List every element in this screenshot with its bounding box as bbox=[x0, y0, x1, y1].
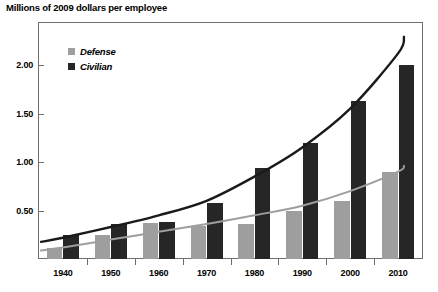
x-axis-tick-label: 2000 bbox=[341, 268, 360, 278]
gray-square-icon bbox=[68, 48, 75, 55]
x-axis-tick-mark bbox=[326, 259, 327, 265]
bar-civilian bbox=[159, 222, 175, 259]
bar-civilian bbox=[303, 143, 319, 259]
bar-civilian bbox=[207, 203, 223, 259]
legend-label-civilian: Civilian bbox=[80, 61, 112, 72]
x-axis-tick-mark bbox=[135, 259, 136, 265]
x-axis-tick-label: 1970 bbox=[197, 268, 216, 278]
bar-defense bbox=[286, 211, 302, 259]
x-axis-tick-mark bbox=[183, 259, 184, 265]
bar-defense bbox=[382, 172, 398, 259]
x-axis-tick-mark bbox=[278, 259, 279, 265]
legend-item-defense: Defense bbox=[68, 46, 116, 57]
black-square-icon bbox=[68, 63, 75, 70]
bar-defense bbox=[191, 226, 207, 259]
bar-civilian bbox=[63, 235, 79, 259]
x-axis-tick-mark bbox=[231, 259, 232, 265]
legend-label-defense: Defense bbox=[80, 46, 116, 57]
bar-defense bbox=[334, 201, 350, 259]
x-axis-tick-label: 1980 bbox=[245, 268, 264, 278]
x-axis-tick-label: 1940 bbox=[53, 268, 72, 278]
y-axis-tick-label: 2.00 bbox=[16, 60, 33, 70]
bar-defense bbox=[143, 223, 159, 259]
y-axis-labels: 0.501.001.502.00 bbox=[0, 0, 33, 292]
y-axis-tick-label: 0.50 bbox=[16, 206, 33, 216]
x-axis-tick-label: 1990 bbox=[293, 268, 312, 278]
chart-container: Millions of 2009 dollars per employee 0.… bbox=[0, 0, 438, 292]
bar-defense bbox=[95, 235, 111, 259]
bar-civilian bbox=[255, 168, 271, 259]
bar-civilian bbox=[351, 101, 367, 259]
legend-item-civilian: Civilian bbox=[68, 61, 116, 72]
x-axis-tick-label: 1950 bbox=[101, 268, 120, 278]
y-axis-tick-label: 1.00 bbox=[16, 157, 33, 167]
bar-defense bbox=[47, 248, 63, 259]
chart-legend: Defense Civilian bbox=[68, 46, 116, 72]
x-axis-tick-label: 2010 bbox=[388, 268, 407, 278]
bar-civilian bbox=[111, 224, 127, 259]
x-axis-tick-mark bbox=[374, 259, 375, 265]
bar-civilian bbox=[399, 65, 415, 259]
x-axis-tick-label: 1960 bbox=[149, 268, 168, 278]
y-axis-tick-label: 1.50 bbox=[16, 109, 33, 119]
bar-defense bbox=[238, 224, 254, 259]
x-axis-tick-mark bbox=[87, 259, 88, 265]
